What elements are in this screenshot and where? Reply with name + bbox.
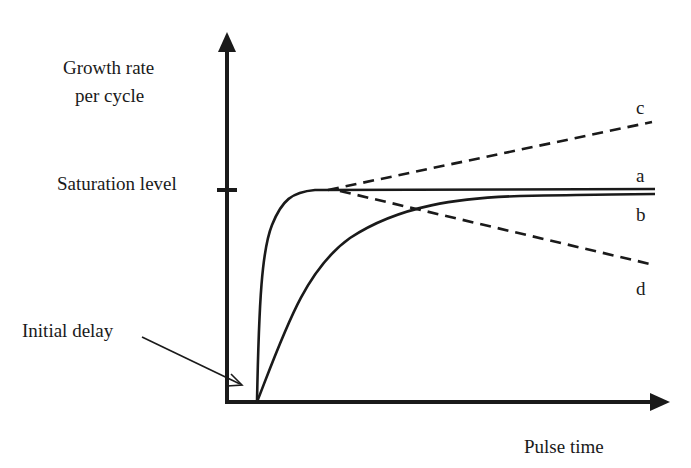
curve-b	[257, 194, 655, 402]
curve-label-c: c	[636, 96, 644, 119]
curve-d	[340, 191, 650, 264]
x-axis-label: Pulse time	[524, 435, 604, 458]
curve-a	[257, 189, 655, 402]
curve-label-b: b	[636, 203, 646, 226]
curve-label-d: d	[636, 277, 646, 300]
saturation-level-label: Saturation level	[57, 172, 177, 195]
y-axis-label-line1: Growth rate	[63, 56, 154, 79]
y-axis-label-line2: per cycle	[75, 84, 144, 107]
y-axis-arrowhead-icon	[218, 32, 236, 52]
curve-c	[328, 122, 652, 190]
initial-delay-label: Initial delay	[22, 319, 113, 342]
x-axis-arrowhead-icon	[650, 393, 670, 411]
curve-label-a: a	[636, 164, 644, 187]
